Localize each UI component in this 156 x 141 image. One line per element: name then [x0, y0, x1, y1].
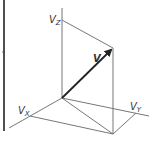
x-axis: [9, 98, 62, 128]
vector-v-arrow: [62, 50, 111, 98]
label-vz: VZ: [49, 14, 61, 27]
label-v: V: [93, 53, 102, 64]
vector-diagram: VZ V VX VY: [0, 0, 156, 141]
border-tick: [2, 51, 3, 53]
label-vx: VX: [18, 105, 30, 118]
vz-projection-line: [62, 20, 113, 48]
vy-base-line: [113, 113, 136, 134]
